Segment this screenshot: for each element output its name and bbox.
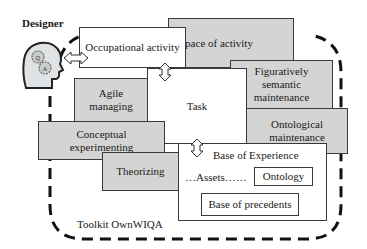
designer-head-gears-icon: Q A — [23, 43, 63, 88]
diagram-canvas: Space of activity Occupational activity … — [0, 0, 367, 249]
svg-text:Q: Q — [36, 55, 41, 61]
designer-label: Designer — [22, 17, 64, 30]
double-arrow-vertical-icon — [191, 139, 203, 157]
toolkit-label: Toolkit OwnWIQA — [77, 218, 163, 231]
double-arrow-vertical-icon — [159, 63, 171, 81]
arrows-layer: Q A — [0, 0, 367, 249]
svg-text:A: A — [43, 66, 47, 72]
double-arrow-horizontal-icon — [64, 52, 88, 64]
